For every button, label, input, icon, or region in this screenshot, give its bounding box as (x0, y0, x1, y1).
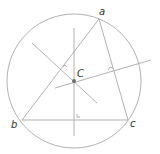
center-label: C (77, 68, 84, 79)
vertex-label-b: b (11, 119, 17, 130)
right-angle-mark-bc (77, 114, 80, 117)
right-angle-mark-ac (108, 67, 113, 70)
triangle-side-ca (99, 19, 128, 120)
circumcenter-dot (72, 79, 76, 83)
perpendicular-bisector-ac (55, 60, 151, 88)
vertex-label-c: c (130, 118, 136, 129)
circumcircle-diagram: C a b c (0, 0, 160, 154)
vertex-label-a: a (99, 6, 105, 17)
